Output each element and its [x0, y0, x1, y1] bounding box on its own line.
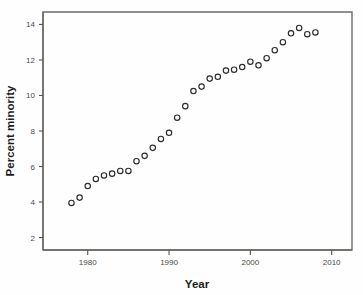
- data-point: [215, 74, 220, 79]
- data-point: [134, 158, 139, 163]
- data-point-group: [69, 25, 318, 205]
- data-point: [109, 171, 114, 176]
- x-tick-label: 2000: [241, 258, 259, 267]
- data-point: [118, 168, 123, 173]
- y-tick-label: 2: [31, 234, 36, 243]
- data-point: [223, 68, 228, 73]
- chart-figure: 2468101214 1980199020002010 Year Percent…: [0, 0, 363, 295]
- data-point: [305, 32, 310, 37]
- data-point: [183, 103, 188, 108]
- data-point: [296, 25, 301, 30]
- data-point: [77, 195, 82, 200]
- y-tick-label: 8: [31, 127, 36, 136]
- y-tick-label: 6: [31, 163, 36, 172]
- data-point: [101, 173, 106, 178]
- x-tick-label: 2010: [323, 258, 341, 267]
- plot-frame: [43, 12, 352, 250]
- x-axis-title: Year: [185, 278, 210, 290]
- scatter-plot-svg: 2468101214 1980199020002010 Year Percent…: [0, 0, 363, 295]
- data-point: [280, 39, 285, 44]
- data-point: [93, 176, 98, 181]
- data-point: [264, 55, 269, 60]
- y-tick-group: 2468101214: [26, 20, 43, 242]
- data-point: [231, 67, 236, 72]
- y-tick-label: 4: [31, 198, 36, 207]
- data-point: [313, 30, 318, 35]
- data-point: [166, 130, 171, 135]
- data-point: [272, 47, 277, 52]
- y-tick-label: 12: [26, 56, 35, 65]
- data-point: [158, 136, 163, 141]
- data-point: [191, 88, 196, 93]
- data-point: [256, 63, 261, 68]
- data-point: [207, 76, 212, 81]
- data-point: [199, 84, 204, 89]
- x-tick-label: 1980: [79, 258, 97, 267]
- y-axis: 2468101214: [26, 12, 43, 250]
- x-axis: 1980199020002010: [43, 250, 352, 267]
- data-point: [150, 145, 155, 150]
- y-axis-title: Percent minority: [4, 85, 16, 176]
- data-point: [174, 115, 179, 120]
- data-point: [126, 168, 131, 173]
- y-tick-label: 14: [26, 20, 35, 29]
- data-point: [288, 31, 293, 36]
- x-tick-group: 1980199020002010: [79, 250, 341, 267]
- data-point: [248, 59, 253, 64]
- data-point: [240, 64, 245, 69]
- data-point: [85, 183, 90, 188]
- data-point: [142, 153, 147, 158]
- data-point: [69, 200, 74, 205]
- y-tick-label: 10: [26, 91, 35, 100]
- x-tick-label: 1990: [160, 258, 178, 267]
